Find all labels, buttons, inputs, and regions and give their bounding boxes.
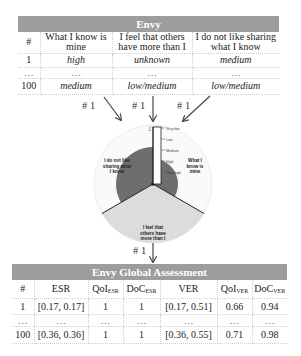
- svg-text:I do not like: I do not like: [104, 158, 130, 163]
- cell-qoi-esr: 1: [88, 326, 123, 343]
- col-header-esr: ESR: [34, 280, 88, 298]
- svg-text:ℰ: ℰ: [148, 126, 152, 132]
- svg-text:I feel that: I feel that: [143, 225, 164, 230]
- cell-doc-esr: 1: [123, 326, 160, 343]
- assessment-table-title: Envy Global Assessment: [12, 264, 287, 280]
- cell-index: 100: [12, 326, 34, 343]
- col-header-qoi-ver: QoIVER: [217, 280, 252, 298]
- column-header-row: # ESR QoIESR DoCESR VER QoIVER DoCVER: [12, 280, 287, 298]
- cell-ver: [0.17, 0.51]: [160, 298, 217, 314]
- col-header-doc-esr: DoCESR: [123, 280, 160, 298]
- cell-doc-ver: 0.94: [252, 298, 287, 314]
- cell-ellipsis: …: [160, 314, 217, 326]
- scale-axis: [153, 127, 161, 184]
- cell-ellipsis: …: [88, 314, 123, 326]
- cell-qoi-ver: 0.71: [217, 326, 252, 343]
- cell-ellipsis: …: [34, 314, 88, 326]
- cell-ellipsis: …: [217, 314, 252, 326]
- cell-ellipsis: …: [12, 314, 34, 326]
- col-header-qoi-esr: QoIESR: [88, 280, 123, 298]
- col-header-ver: VER: [160, 280, 217, 298]
- cell-qoi-esr: 1: [88, 298, 123, 314]
- cell-index: 1: [12, 298, 34, 314]
- svg-text:mine: mine: [190, 169, 201, 174]
- svg-text:I know: I know: [110, 169, 125, 174]
- arrow-left: [104, 97, 121, 120]
- scale-very-high: Very high: [166, 171, 181, 175]
- svg-text:others have: others have: [140, 231, 166, 236]
- cell-esr: [0.36, 0.36]: [34, 326, 88, 343]
- cell-esr: [0.17, 0.17]: [34, 298, 88, 314]
- scale-low: Low: [166, 138, 173, 142]
- col-header-index: #: [12, 280, 34, 298]
- scale-very-low: Very low: [166, 127, 180, 131]
- scale-high: High: [166, 160, 173, 164]
- svg-text:What I: What I: [188, 158, 202, 163]
- envy-global-assessment-table: Envy Global Assessment # ESR QoIESR DoCE…: [12, 264, 287, 344]
- cell-ellipsis: …: [252, 314, 287, 326]
- cell-ellipsis: …: [123, 314, 160, 326]
- table-row-ellipsis: … … … … … … …: [12, 314, 287, 326]
- svg-text:know is: know is: [187, 164, 204, 169]
- scale-medium: Medium: [166, 149, 179, 153]
- cell-doc-ver: 0.98: [252, 326, 287, 343]
- arrow-right: [183, 96, 210, 121]
- table-row: 100 [0.36, 0.36] 1 1 [0.36, 0.55] 0.71 0…: [12, 326, 287, 343]
- svg-text:more than I: more than I: [141, 236, 166, 241]
- col-header-doc-ver: DoCVER: [252, 280, 287, 298]
- cell-doc-esr: 1: [123, 298, 160, 314]
- cell-ver: [0.36, 0.55]: [160, 326, 217, 343]
- table-row: 1 [0.17, 0.17] 1 1 [0.17, 0.51] 0.66 0.9…: [12, 298, 287, 314]
- svg-text:sharing what: sharing what: [103, 164, 132, 169]
- cell-qoi-ver: 0.66: [217, 298, 252, 314]
